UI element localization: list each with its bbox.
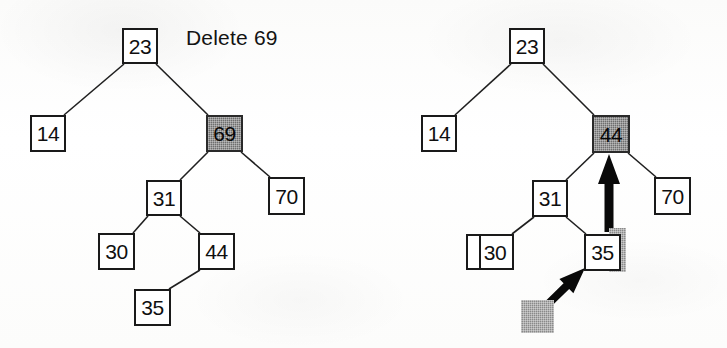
move-up-arrow	[598, 154, 620, 232]
tree-node-label: 35	[591, 242, 613, 263]
tree-edge	[628, 153, 656, 177]
tree-node-label: 23	[129, 36, 151, 57]
tree-edge	[241, 152, 270, 177]
tree-node-31: 31	[532, 180, 568, 217]
tree-edge	[133, 216, 148, 233]
tree-node-35: 35	[584, 234, 621, 271]
tree-node-44: 44	[592, 115, 630, 153]
tree-node-35: 35	[134, 289, 171, 326]
tree-node-14: 14	[30, 115, 66, 152]
tree-edge	[180, 216, 200, 233]
tree-node-label: 31	[153, 188, 175, 209]
tree-node-label: 31	[539, 188, 561, 209]
removed-node-marker	[521, 300, 554, 333]
tree-edges-layer	[0, 0, 727, 348]
tree-node-label: 14	[37, 123, 59, 144]
tree-node-70: 70	[654, 177, 691, 215]
tree-node-69: 69	[206, 115, 243, 152]
tree-node-label: 70	[661, 186, 683, 207]
tree-edge	[64, 64, 124, 115]
figure-title: Delete 69	[186, 26, 278, 50]
tree-node-label: 30	[105, 241, 127, 262]
tree-node-label: 44	[600, 124, 622, 145]
tree-edge	[180, 152, 208, 180]
tree-node-23: 23	[509, 28, 545, 64]
tree-node-30: 30	[98, 233, 135, 270]
tree-edge	[169, 270, 200, 289]
tree-edge	[512, 217, 534, 234]
tree-node-label: 35	[141, 297, 163, 318]
tree-edge	[566, 153, 594, 180]
tree-node-label: 14	[428, 123, 450, 144]
tree-edge	[156, 64, 208, 115]
tree-node-70: 70	[268, 177, 305, 215]
tree-node-30: 30	[466, 234, 514, 270]
edges-group	[64, 64, 656, 289]
tree-node-label: 30	[484, 242, 506, 263]
tree-node-label: 44	[205, 241, 227, 262]
tree-node-label: 70	[275, 186, 297, 207]
tree-node-23: 23	[122, 28, 158, 64]
figure-canvas: 231469317030443523144431703035 Delete 69	[0, 0, 727, 348]
tree-node-31: 31	[146, 180, 182, 216]
tree-edge	[455, 64, 511, 115]
tree-node-14: 14	[421, 115, 457, 152]
tree-edge	[543, 64, 594, 115]
tree-node-label: 69	[213, 123, 235, 144]
tree-node-label: 23	[516, 36, 538, 57]
tree-edge	[566, 217, 586, 234]
tree-node-44: 44	[198, 233, 235, 270]
move-up-arrow-head	[598, 154, 620, 232]
